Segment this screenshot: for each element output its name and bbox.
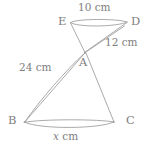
vertex-label-E: E [58,16,66,28]
large-cone-right-slant [86,53,114,122]
top-rim-front-arc [71,22,128,26]
vertex-label-B: B [8,115,16,127]
bottom-rim-back-arc [25,120,114,123]
vertex-dot-B [24,121,26,123]
figure-canvas [0,0,145,146]
small-cone-left-slant [71,23,86,53]
dimension-label-slant: 12 cm [105,37,138,48]
vertex-label-D: D [131,16,140,28]
vertex-label-C: C [126,115,135,127]
dimension-label-left: 24 cm [19,62,52,73]
dimension-label-top: 10 cm [78,2,111,13]
vertex-label-A: A [79,57,87,69]
geometry-figure: E D A B C 10 cm 12 cm 24 cm x cm [0,0,145,146]
bottom-rim-front-arc [25,122,114,127]
top-rim-back-arc [71,19,128,22]
vertex-dot-C [113,121,115,123]
dimension-label-bottom: x cm [53,131,78,142]
dimension-unit-bottom: cm [59,130,78,142]
vertex-dot-A [84,52,86,54]
